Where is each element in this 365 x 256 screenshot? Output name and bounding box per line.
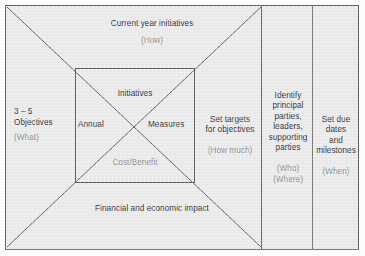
column-set-targets-question: (How much) [208,146,253,155]
column-identify-parties-label: Identify principal parties, leaders, sup… [269,91,308,153]
bottom-band-label: Financial and economic impact [62,204,242,215]
diagram-canvas: Current year initiatives (How) 3 – 5 Obj… [0,0,365,256]
column-set-targets: Set targets for objectives (How much) [200,104,260,157]
top-band-question: (How) [62,36,242,47]
column-set-due-dates: Set due dates and milestones (When) [314,104,358,178]
left-band-label: 3 – 5 Objectives [14,107,72,128]
column-identify-parties: Identify principal parties, leaders, sup… [264,80,312,185]
column-set-due-dates-label: Set due dates and milestones [316,115,356,156]
inner-box-bottom-label: Cost/Benefit [76,158,194,169]
column-set-due-dates-question: (When) [322,167,349,176]
left-band-question: (What) [14,133,72,144]
column-identify-parties-question: (Who) (Where) [273,164,303,184]
top-band-label: Current year initiatives [62,19,242,30]
inner-box-top-label: Initiatives [76,89,194,100]
column-set-targets-label: Set targets for objectives [206,115,255,135]
inner-box-right-label: Measures [148,120,194,131]
inner-box-left-label: Annual [78,120,122,131]
